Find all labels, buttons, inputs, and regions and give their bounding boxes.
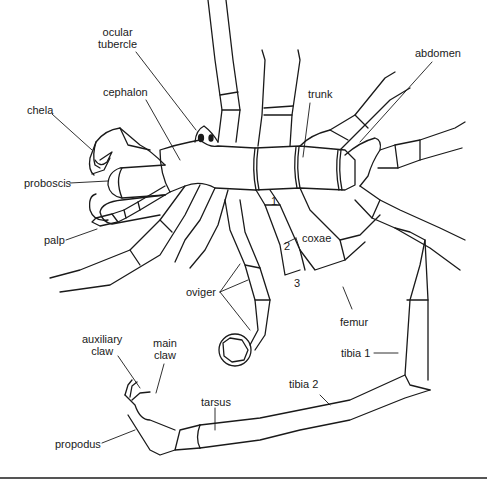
label-auxiliary-line1: auxiliary (82, 333, 122, 345)
label-cephalon: cephalon (103, 86, 148, 98)
label-main-claw: main claw (153, 337, 177, 361)
label-chela: chela (27, 104, 53, 116)
label-auxiliary-line2: claw (82, 345, 122, 357)
label-coxae: coxae (302, 232, 331, 244)
bottom-divider (0, 477, 487, 479)
label-tibia-1: tibia 1 (341, 347, 370, 359)
leader-lines (52, 52, 432, 443)
legs (50, 0, 465, 455)
label-oviger: oviger (186, 286, 216, 298)
label-abdomen: abdomen (415, 47, 461, 59)
label-femur: femur (340, 316, 368, 328)
label-tarsus: tarsus (201, 396, 231, 408)
label-palp: palp (44, 234, 65, 246)
label-proboscis: proboscis (24, 177, 71, 189)
label-ocular-tubercle: ocular tubercle (98, 26, 137, 50)
label-ocular-line1: ocular (98, 26, 137, 38)
label-coxa-1: 1 (271, 195, 277, 207)
label-tibia-2: tibia 2 (289, 378, 318, 390)
label-auxiliary-claw: auxiliary claw (82, 333, 122, 357)
label-main-line1: main (153, 337, 177, 349)
anatomy-line-drawing (0, 0, 487, 484)
label-propodus: propodus (55, 438, 101, 450)
sea-spider-anatomy-diagram: ocular tubercle cephalon chela proboscis… (0, 0, 487, 484)
trunk-body (160, 126, 380, 192)
label-coxa-3: 3 (294, 277, 300, 289)
label-main-line2: claw (153, 349, 177, 361)
label-coxa-2: 2 (284, 240, 290, 252)
label-trunk: trunk (308, 88, 332, 100)
proboscis-structure (90, 165, 165, 224)
label-ocular-line2: tubercle (98, 38, 137, 50)
